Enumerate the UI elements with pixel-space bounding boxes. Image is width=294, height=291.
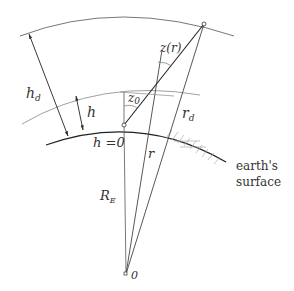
label-hd: hd <box>26 85 41 103</box>
label-RE: RE <box>99 188 116 205</box>
earth-surface-hatching <box>166 130 220 164</box>
label-zr: z(r) <box>159 41 182 55</box>
refraction-geometry-diagram: hd h h =0 z0 z(r) rd r RE 0 earth's surf… <box>0 0 294 291</box>
label-h-zero: h =0 <box>93 135 125 150</box>
radius-rd-line <box>126 24 204 274</box>
h-dimension-arrow <box>76 96 83 130</box>
label-h: h <box>87 104 96 120</box>
label-earth-surface-2: surface <box>236 175 281 189</box>
height-h-arc <box>22 90 200 124</box>
label-r: r <box>148 146 155 161</box>
label-rd: rd <box>182 105 195 123</box>
point-h0 <box>122 123 126 127</box>
ray-path <box>124 24 204 125</box>
point-top <box>202 22 206 26</box>
label-earth-surface-1: earth's <box>236 159 278 173</box>
label-origin: 0 <box>131 269 138 282</box>
origin-point <box>124 272 127 275</box>
